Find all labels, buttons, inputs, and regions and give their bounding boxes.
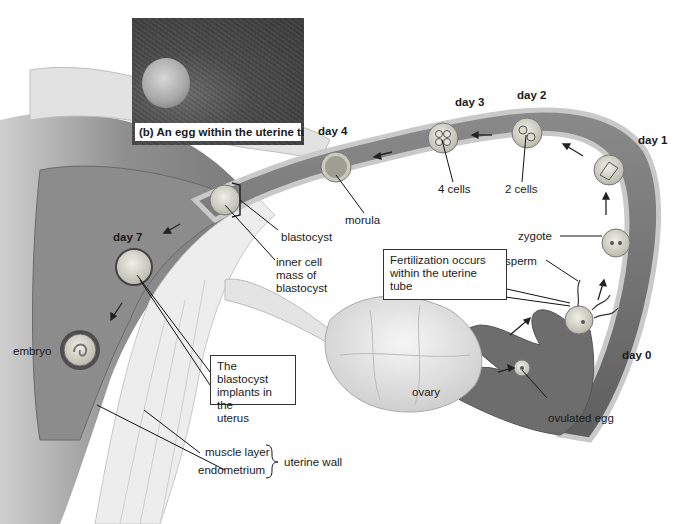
label-inner-cell-mass-1: inner cell bbox=[276, 256, 322, 269]
label-blastocyst: blastocyst bbox=[281, 231, 332, 244]
label-day-4: day 4 bbox=[318, 125, 347, 137]
label-inner-cell-mass-3: blastocyst bbox=[276, 282, 327, 295]
callout-implantation-line-1: The blastocyst bbox=[217, 360, 289, 386]
callout-fertilization-line-2: within the uterine bbox=[390, 267, 500, 280]
fertilization-diagram: (b) An egg within the uterine tube day 3… bbox=[0, 0, 678, 524]
implanting-blastocyst bbox=[116, 249, 152, 285]
callout-fertilization-line-1: Fertilization occurs bbox=[390, 254, 500, 267]
egg-micrograph bbox=[142, 58, 190, 108]
label-day-2: day 2 bbox=[517, 89, 546, 101]
label-2-cells: 2 cells bbox=[505, 183, 538, 196]
inset-caption: (b) An egg within the uterine tube bbox=[135, 123, 301, 141]
label-inner-cell-mass-2: mass of bbox=[276, 269, 316, 282]
fertilized-egg bbox=[565, 306, 593, 334]
label-zygote: zygote bbox=[518, 230, 552, 243]
callout-implantation-line-2: implants in the bbox=[217, 386, 289, 412]
label-day-3: day 3 bbox=[455, 96, 484, 108]
day1-cell bbox=[594, 155, 624, 185]
label-day-7: day 7 bbox=[113, 231, 142, 243]
label-day-1: day 1 bbox=[638, 134, 667, 146]
ovulated-egg bbox=[514, 360, 530, 376]
label-day-0: day 0 bbox=[622, 349, 651, 361]
morula bbox=[321, 152, 351, 182]
label-ovary: ovary bbox=[412, 386, 440, 399]
callout-implantation: The blastocyst implants in the uterus bbox=[210, 355, 296, 405]
label-embryo: embryo bbox=[13, 345, 51, 358]
label-ovulated-egg: ovulated egg bbox=[548, 412, 614, 425]
zygote bbox=[602, 229, 630, 257]
label-sperm: sperm bbox=[505, 255, 537, 268]
embryo bbox=[60, 330, 100, 370]
anatomy-illustration bbox=[0, 0, 678, 524]
callout-fertilization-line-3: tube bbox=[390, 280, 500, 293]
two-cell-stage bbox=[512, 118, 542, 148]
callout-fertilization: Fertilization occurs within the uterine … bbox=[383, 249, 507, 300]
label-morula: morula bbox=[345, 214, 380, 227]
four-cell-stage bbox=[428, 123, 458, 153]
label-uterine-wall: uterine wall bbox=[284, 456, 342, 469]
label-muscle-layer: muscle layer bbox=[205, 446, 270, 459]
inset-photo-egg: (b) An egg within the uterine tube bbox=[132, 18, 304, 145]
callout-implantation-line-3: uterus bbox=[217, 412, 289, 425]
label-endometrium: endometrium bbox=[198, 464, 265, 477]
label-4-cells: 4 cells bbox=[438, 183, 471, 196]
